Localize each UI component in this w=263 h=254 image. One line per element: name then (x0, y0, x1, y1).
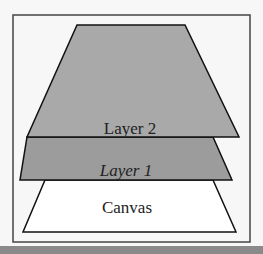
bottom-bar (0, 246, 263, 254)
canvas-label: Canvas (102, 198, 152, 217)
layer-1-label: Layer 1 (99, 161, 152, 180)
layer-2-label: Layer 2 (104, 119, 156, 138)
layer-stack-diagram: Layer 2 Layer 1 Canvas (0, 0, 263, 254)
